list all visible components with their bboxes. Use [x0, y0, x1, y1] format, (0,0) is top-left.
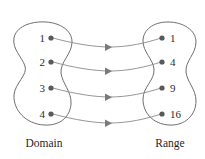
range-element-dot — [159, 59, 164, 64]
domain-element: 2 — [40, 56, 54, 68]
arrow-head-icon — [105, 68, 112, 75]
range-element-dot — [159, 35, 164, 40]
range-element-dot — [159, 111, 164, 116]
range-elements-group: 1 4 9 16 — [159, 32, 181, 120]
range-element-dot — [159, 85, 164, 90]
arrow-head-icon — [105, 120, 112, 127]
range-element-label: 9 — [170, 82, 176, 94]
domain-elements-group: 1 2 3 4 — [40, 32, 54, 120]
domain-element: 3 — [40, 82, 54, 94]
domain-element-dot — [48, 85, 53, 90]
range-element-label: 1 — [170, 32, 176, 44]
domain-element-label: 3 — [40, 82, 46, 94]
range-element: 4 — [159, 56, 176, 68]
arrow-head-icon — [105, 44, 112, 51]
domain-element-label: 4 — [40, 108, 46, 120]
domain-element-dot — [48, 111, 53, 116]
range-element: 16 — [159, 108, 181, 120]
range-element-label: 16 — [170, 108, 182, 120]
mapping-diagram-canvas: 1 2 3 4 1 4 — [0, 0, 205, 159]
range-caption: Range — [155, 137, 184, 150]
domain-element: 1 — [40, 32, 54, 44]
mapping-arrow — [53, 114, 161, 127]
mapping-arrow — [53, 62, 161, 75]
range-element-label: 4 — [170, 56, 176, 68]
domain-element-dot — [48, 35, 53, 40]
range-element: 1 — [159, 32, 175, 44]
mapping-diagram: 1 2 3 4 1 4 — [0, 0, 205, 159]
range-element: 9 — [159, 82, 176, 94]
domain-element: 4 — [40, 108, 54, 120]
domain-element-label: 1 — [40, 32, 46, 44]
domain-element-label: 2 — [40, 56, 46, 68]
domain-element-dot — [48, 59, 53, 64]
arrow-head-icon — [105, 94, 112, 101]
domain-caption: Domain — [25, 137, 62, 149]
